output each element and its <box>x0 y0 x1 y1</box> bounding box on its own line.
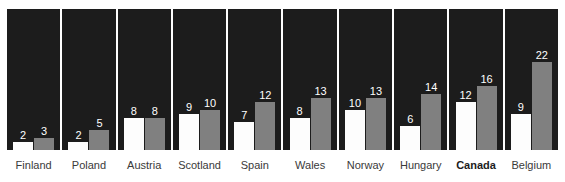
bar <box>311 98 331 150</box>
bar <box>477 86 497 150</box>
category-panel: 1013 <box>339 9 392 150</box>
bar-value-label: 8 <box>124 105 144 117</box>
category-panel: 1216 <box>449 9 502 150</box>
bar <box>234 122 254 150</box>
bar-slot: 8 <box>290 9 310 150</box>
bar-value-label: 13 <box>366 85 386 97</box>
category-label: Spain <box>228 156 281 178</box>
bar <box>400 126 420 150</box>
category-panel: 614 <box>394 9 447 150</box>
category-panel: 813 <box>283 9 336 150</box>
bar-slot: 10 <box>200 9 220 150</box>
bar <box>34 138 54 150</box>
bar-slot: 12 <box>255 9 275 150</box>
bar <box>366 98 386 150</box>
bar-slot: 2 <box>13 9 33 150</box>
bar-value-label: 10 <box>345 97 365 109</box>
bar-slot: 10 <box>345 9 365 150</box>
bar-value-label: 6 <box>400 113 420 125</box>
category-panel: 25 <box>62 9 115 150</box>
category-label: Wales <box>283 156 336 178</box>
bar-slot: 3 <box>34 9 54 150</box>
bar-value-label: 5 <box>89 117 109 129</box>
bar-slot: 7 <box>234 9 254 150</box>
bar-slot: 5 <box>89 9 109 150</box>
bar <box>200 110 220 150</box>
bar-value-label: 2 <box>68 129 88 141</box>
bar <box>345 110 365 150</box>
bar-slot: 22 <box>532 9 552 150</box>
bar-value-label: 7 <box>234 109 254 121</box>
bar <box>179 114 199 150</box>
bar <box>13 142 33 150</box>
category-label: Austria <box>118 156 171 178</box>
bar-value-label: 13 <box>311 85 331 97</box>
bar-group: 712 <box>228 9 281 150</box>
category-label-strip: FinlandPolandAustriaScotlandSpainWalesNo… <box>7 156 558 178</box>
bar-value-label: 10 <box>200 97 220 109</box>
bar-value-label: 2 <box>13 129 33 141</box>
bar-value-label: 3 <box>34 125 54 137</box>
bar-group: 614 <box>394 9 447 150</box>
bar-value-label: 8 <box>290 105 310 117</box>
bar-slot: 8 <box>124 9 144 150</box>
bar-chart: 23258891071281310136141216922 FinlandPol… <box>0 0 565 182</box>
bar <box>421 94 441 150</box>
bar-slot: 13 <box>366 9 386 150</box>
bar-value-label: 9 <box>179 101 199 113</box>
bar-slot: 14 <box>421 9 441 150</box>
bar-value-label: 12 <box>255 89 275 101</box>
bar-group: 88 <box>118 9 171 150</box>
bar-value-label: 9 <box>511 101 531 113</box>
bar-slot: 6 <box>400 9 420 150</box>
bar-slot: 9 <box>179 9 199 150</box>
category-panel: 712 <box>228 9 281 150</box>
bar <box>290 118 310 150</box>
bar <box>511 114 531 150</box>
bar-group: 25 <box>62 9 115 150</box>
bar <box>124 118 144 150</box>
bar-value-label: 16 <box>477 73 497 85</box>
bar <box>145 118 165 150</box>
bar <box>255 102 275 150</box>
bar-value-label: 8 <box>145 105 165 117</box>
category-label: Belgium <box>505 156 558 178</box>
bar-value-label: 12 <box>456 89 476 101</box>
category-panel: 910 <box>173 9 226 150</box>
category-label: Hungary <box>394 156 447 178</box>
bar-group: 910 <box>173 9 226 150</box>
category-label: Finland <box>7 156 60 178</box>
bar-group: 1013 <box>339 9 392 150</box>
category-panel: 23 <box>7 9 60 150</box>
bar-value-label: 14 <box>421 81 441 93</box>
bar-group: 813 <box>283 9 336 150</box>
category-label: Canada <box>449 156 502 178</box>
bar-group: 922 <box>505 9 558 150</box>
bar-value-label: 22 <box>532 49 552 61</box>
bar-slot: 9 <box>511 9 531 150</box>
category-label: Poland <box>62 156 115 178</box>
category-label: Scotland <box>173 156 226 178</box>
bar <box>456 102 476 150</box>
category-panel: 88 <box>118 9 171 150</box>
bar <box>89 130 109 150</box>
bar <box>532 62 552 150</box>
bar <box>68 142 88 150</box>
bar-group: 1216 <box>449 9 502 150</box>
panel-strip: 23258891071281310136141216922 <box>7 9 558 150</box>
bar-group: 23 <box>7 9 60 150</box>
bar-slot: 2 <box>68 9 88 150</box>
category-label: Norway <box>339 156 392 178</box>
bar-slot: 8 <box>145 9 165 150</box>
bar-slot: 16 <box>477 9 497 150</box>
bar-slot: 12 <box>456 9 476 150</box>
bar-slot: 13 <box>311 9 331 150</box>
category-panel: 922 <box>505 9 558 150</box>
